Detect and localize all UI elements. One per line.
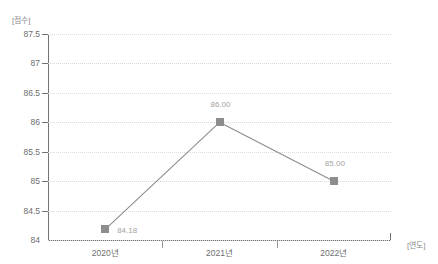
x-axis-tick [162,241,163,248]
y-axis-unit-label: [점수] [12,14,30,25]
y-axis-tick-label: 84.5 [6,206,40,216]
gridline [48,211,391,212]
y-axis-tick-label: 87 [6,58,40,68]
x-axis-unit-label: [연도] [407,239,425,250]
y-axis-tick-label: 86 [6,117,40,127]
x-axis-tick [277,241,278,248]
y-axis-tick [42,34,48,35]
gridline [48,93,391,94]
y-axis-tick-label: 85.5 [6,147,40,157]
gridline [48,63,391,64]
y-axis-tick-label: 85 [6,176,40,186]
y-axis-tick-label: 86.5 [6,88,40,98]
y-axis-tick [42,181,48,182]
data-point-label: 85.00 [325,159,345,168]
gridline [48,34,391,35]
data-point-marker [101,225,109,233]
line-chart: [점수] [연도] 87.58786.58685.58584.584 2020년… [0,0,438,264]
gridline [48,181,391,182]
y-axis-tick [42,122,48,123]
y-axis-tick [42,211,48,212]
x-axis-tick-label: 2021년 [206,246,233,258]
y-axis-tick [42,63,48,64]
plot-area [48,34,391,240]
x-axis-tick-label: 2020년 [92,246,119,258]
data-point-label: 84.18 [117,226,137,235]
y-axis-tick [42,152,48,153]
gridline [48,240,391,241]
y-axis-tick-label: 87.5 [6,29,40,39]
data-point-marker [330,177,338,185]
data-point-label: 86.00 [210,100,230,109]
y-axis-tick-label: 84 [6,235,40,245]
gridline [48,152,391,153]
y-axis-tick [42,93,48,94]
data-point-marker [216,118,224,126]
x-axis-tick-label: 2022년 [320,246,347,258]
